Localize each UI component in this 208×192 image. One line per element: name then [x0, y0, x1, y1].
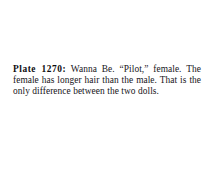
plate-number-label: Plate 1270: [13, 64, 66, 74]
plate-caption-block: Plate 1270: Wanna Be. “Pilot,” female. T… [13, 64, 201, 97]
caption-paragraph: Plate 1270: Wanna Be. “Pilot,” female. T… [13, 64, 201, 97]
document-page: Plate 1270: Wanna Be. “Pilot,” female. T… [0, 0, 208, 192]
